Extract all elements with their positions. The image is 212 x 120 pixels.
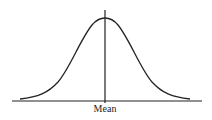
mean-label: Mean [85, 103, 125, 114]
bell-curve-diagram [0, 0, 212, 120]
